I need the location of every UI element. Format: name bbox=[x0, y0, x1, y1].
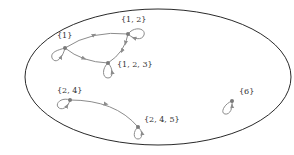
label-12: {1, 2} bbox=[121, 15, 146, 24]
label-245: {2, 4, 5} bbox=[144, 115, 180, 124]
graph-svg: {1} {1, 2} {1, 2, 3} {2, 4} {2, 4, 5} {6… bbox=[0, 0, 294, 155]
label-123: {1, 2, 3} bbox=[117, 60, 153, 69]
edge-12-to-123 bbox=[108, 34, 128, 63]
self-loop-6 bbox=[223, 101, 232, 114]
edge-1-to-123 bbox=[65, 48, 108, 63]
bounding-ellipse bbox=[25, 9, 291, 145]
edge-24-to-245 bbox=[70, 100, 138, 127]
edge-1-to-12 bbox=[65, 33, 128, 48]
diagram-canvas: {1} {1, 2} {1, 2, 3} {2, 4} {2, 4, 5} {6… bbox=[0, 0, 294, 155]
self-loop-24 bbox=[57, 99, 70, 109]
self-loop-123 bbox=[104, 63, 113, 78]
label-1: {1} bbox=[57, 31, 72, 40]
label-6: {6} bbox=[239, 87, 254, 96]
node-6 bbox=[230, 99, 234, 103]
self-loop-1 bbox=[52, 48, 65, 61]
self-loop-12 bbox=[128, 29, 144, 39]
node-123 bbox=[106, 61, 110, 65]
node-12 bbox=[126, 32, 130, 36]
label-24: {2, 4} bbox=[57, 86, 82, 95]
node-24 bbox=[68, 98, 72, 102]
node-245 bbox=[136, 125, 140, 129]
node-1 bbox=[63, 46, 67, 50]
